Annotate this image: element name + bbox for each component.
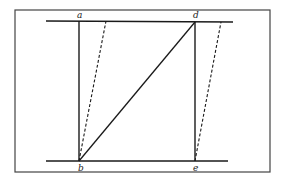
diagram-canvas: a d b e <box>0 0 282 185</box>
label-a: a <box>77 10 82 20</box>
dashed-line-from-b <box>79 21 106 161</box>
diagram-frame <box>15 10 270 172</box>
label-d: d <box>193 10 199 20</box>
top-rail-line <box>46 21 233 22</box>
diagonal-bd <box>79 22 195 161</box>
dashed-line-from-e <box>195 22 221 161</box>
label-e: e <box>193 163 198 173</box>
label-b: b <box>78 163 84 173</box>
